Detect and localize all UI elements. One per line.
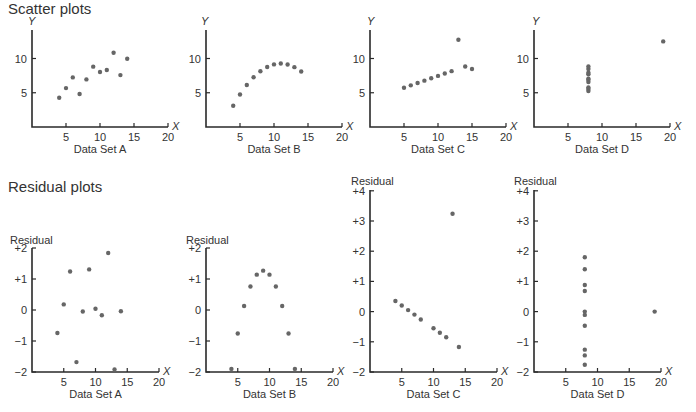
y-tick-label: 5 — [359, 87, 365, 99]
data-point — [586, 85, 590, 89]
data-point — [62, 302, 66, 306]
y-tick-label: +2 — [352, 245, 365, 257]
y-tick-label: 0 — [523, 306, 529, 318]
x-tick-label: 15 — [623, 376, 635, 388]
y-axis-label: Residual — [186, 234, 229, 246]
axes — [206, 30, 342, 127]
x-axis-label: X — [664, 365, 673, 377]
data-point — [406, 308, 410, 312]
y-tick-label: +1 — [352, 275, 365, 287]
chart-caption: Data Set C — [407, 388, 461, 400]
data-point — [265, 65, 269, 69]
x-tick-label: 10 — [427, 376, 439, 388]
data-point — [286, 331, 290, 335]
data-point — [409, 83, 413, 87]
x-tick-label: 20 — [162, 131, 174, 143]
data-point — [402, 86, 406, 90]
data-point — [236, 331, 240, 335]
data-point — [586, 77, 590, 81]
y-tick-label: 5 — [195, 87, 201, 99]
y-tick-label: −1 — [352, 336, 365, 348]
x-tick-label: 10 — [89, 376, 101, 388]
x-tick-label: 10 — [591, 376, 603, 388]
x-tick-label: 10 — [596, 131, 608, 143]
data-point — [586, 64, 590, 68]
y-axis-label: Y — [367, 15, 375, 27]
chart-scatter-data-set-a: 5101520X510YData Set A — [15, 15, 180, 155]
data-point — [125, 57, 129, 61]
data-point — [119, 309, 123, 313]
x-tick-label: 20 — [500, 131, 512, 143]
chart-caption: Data Set D — [575, 143, 629, 155]
data-point — [583, 289, 587, 293]
y-tick-label: −2 — [188, 366, 201, 378]
data-point — [583, 353, 587, 357]
chart-scatter-data-set-b: 5101520X510YData Set B — [189, 15, 354, 155]
data-point — [77, 92, 81, 96]
data-point — [436, 74, 440, 78]
y-tick-label: 5 — [21, 87, 27, 99]
data-point — [248, 284, 252, 288]
data-point — [583, 363, 587, 367]
x-tick-label: 10 — [432, 131, 444, 143]
y-tick-label: −1 — [516, 336, 529, 348]
y-tick-label: −1 — [188, 335, 201, 347]
x-tick-label: 20 — [664, 131, 676, 143]
chart-caption: Data Set B — [247, 143, 300, 155]
x-tick-label: 10 — [263, 376, 275, 388]
data-point — [412, 312, 416, 316]
data-point — [583, 283, 587, 287]
data-point — [74, 360, 78, 364]
chart-residual-data-set-b: 5101520X+2+10−1−2ResidualData Set B — [186, 234, 345, 400]
x-tick-label: 15 — [295, 376, 307, 388]
data-point — [118, 73, 122, 77]
y-axis-label: Y — [201, 15, 209, 27]
axes — [370, 30, 506, 127]
data-point — [292, 65, 296, 69]
y-axis-label: Residual — [514, 175, 557, 187]
data-point — [105, 68, 109, 72]
data-point — [443, 71, 447, 75]
data-point — [661, 39, 665, 43]
y-axis-label: Y — [532, 15, 540, 27]
data-point — [272, 62, 276, 66]
data-point — [583, 324, 587, 328]
data-point — [299, 69, 303, 73]
data-point — [255, 272, 259, 276]
y-tick-label: 0 — [359, 306, 365, 318]
y-tick-label: +1 — [516, 275, 529, 287]
data-point — [106, 251, 110, 255]
data-point — [111, 51, 115, 55]
chart-residual-data-set-d: 5101520X+4+3+2+10−1−2ResidualData Set D — [514, 175, 673, 400]
data-point — [438, 331, 442, 335]
data-point — [279, 61, 283, 65]
data-point — [400, 303, 404, 307]
data-point — [91, 64, 95, 68]
data-point — [87, 267, 91, 271]
data-point — [57, 96, 61, 100]
data-point — [267, 272, 271, 276]
x-tick-label: 20 — [153, 376, 165, 388]
charts-canvas: 5101520X510YData Set A5101520X510YData S… — [0, 0, 696, 412]
data-point — [71, 75, 75, 79]
data-point — [81, 309, 85, 313]
data-point — [457, 345, 461, 349]
y-tick-label: −2 — [14, 366, 27, 378]
y-tick-label: 10 — [189, 53, 201, 65]
data-point — [100, 313, 104, 317]
data-point — [586, 71, 590, 75]
data-point — [583, 313, 587, 317]
x-tick-label: 5 — [61, 376, 67, 388]
axes — [534, 30, 670, 127]
chart-scatter-data-set-c: 5101520X510YData Set C — [353, 15, 518, 155]
y-tick-label: +3 — [516, 215, 529, 227]
x-tick-label: 5 — [63, 131, 69, 143]
chart-residual-data-set-a: 5101520X+2+10−1−2ResidualData Set A — [10, 234, 171, 400]
x-tick-label: 20 — [655, 376, 667, 388]
data-point — [242, 304, 246, 308]
data-point — [93, 307, 97, 311]
x-tick-label: 10 — [94, 131, 106, 143]
x-tick-label: 20 — [491, 376, 503, 388]
y-tick-label: +3 — [352, 215, 365, 227]
data-point — [419, 317, 423, 321]
